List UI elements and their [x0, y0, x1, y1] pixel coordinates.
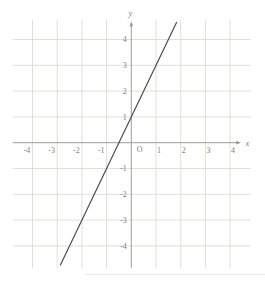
origin-label: O: [137, 145, 143, 154]
x-tick-label: -2: [73, 146, 80, 155]
x-tick-label: 3: [206, 146, 210, 155]
x-tick-label: 1: [157, 146, 161, 155]
plotted-line: [60, 22, 176, 265]
x-tick-label: -1: [98, 146, 105, 155]
x-axis-label: x: [245, 138, 250, 148]
y-tick-label: -2: [120, 190, 127, 199]
x-axis-arrow: [236, 141, 241, 145]
y-tick-label: -3: [120, 216, 127, 225]
y-tick-label: 4: [123, 35, 127, 44]
x-tick-label: 4: [231, 146, 235, 155]
y-tick-label: 2: [123, 87, 127, 96]
y-tick-label: 3: [123, 61, 127, 70]
y-tick-label: 1: [123, 113, 127, 122]
graph-canvas: xy-4-3-2-11234-4-3-2-11234O: [0, 0, 265, 282]
coordinate-plane-chart: xy-4-3-2-11234-4-3-2-11234O: [0, 0, 265, 282]
x-tick-label: -4: [24, 146, 31, 155]
x-tick-label: 2: [182, 146, 186, 155]
y-tick-label: -4: [120, 242, 127, 251]
y-tick-label: -1: [120, 164, 127, 173]
y-axis-label: y: [128, 8, 133, 18]
x-tick-label: -3: [48, 146, 55, 155]
y-axis-arrow: [129, 22, 133, 27]
